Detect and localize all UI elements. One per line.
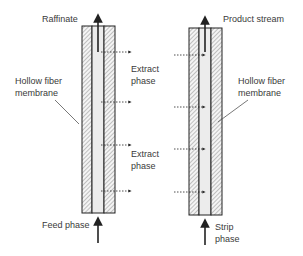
product-stream-label: Product stream xyxy=(223,13,284,25)
right-hollow-fiber-module xyxy=(174,20,248,245)
extract-phase-lower-line2: phase xyxy=(131,160,156,172)
right-membrane-wall-inner xyxy=(211,28,222,215)
left-membrane-wall-outer xyxy=(82,26,92,213)
left-membrane-leader-line xyxy=(55,100,79,124)
raffinate-label: Raffinate xyxy=(42,13,78,25)
right-membrane-label-line2: membrane xyxy=(238,87,281,99)
left-hollow-fiber-module xyxy=(55,18,130,243)
strip-phase-label-line1: Strip xyxy=(215,221,234,233)
left-membrane-wall-inner xyxy=(104,26,115,213)
right-membrane-wall-outer xyxy=(189,28,199,215)
extract-phase-lower-line1: Extract xyxy=(131,148,159,160)
left-feed-channel xyxy=(92,26,104,213)
diagram-canvas xyxy=(0,0,303,256)
right-membrane-label-line1: Hollow fiber xyxy=(238,75,285,87)
extract-phase-upper-line2: phase xyxy=(131,75,156,87)
feed-phase-label: Feed phase xyxy=(42,219,90,231)
right-strip-channel xyxy=(199,28,211,215)
left-membrane-label-line1: Hollow fiber xyxy=(15,75,62,87)
strip-phase-label-line2: phase xyxy=(215,233,240,245)
extract-phase-upper-line1: Extract xyxy=(131,63,159,75)
left-membrane-label-line2: membrane xyxy=(15,87,58,99)
